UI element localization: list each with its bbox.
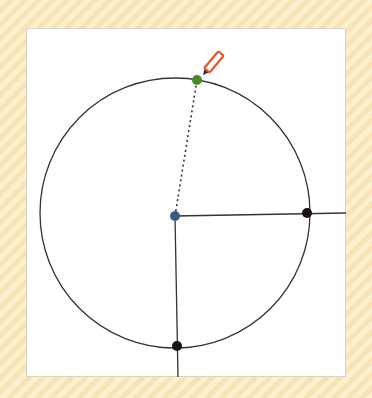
- vertical-ray-line[interactable]: [175, 216, 178, 377]
- dashed-radius-line[interactable]: [175, 80, 197, 216]
- intersection-bottom-point[interactable]: [172, 341, 182, 351]
- horizontal-ray-line[interactable]: [175, 213, 346, 216]
- center-point[interactable]: [170, 211, 180, 221]
- radius-endpoint-top-point[interactable]: [192, 75, 202, 85]
- intersection-right-point[interactable]: [302, 208, 312, 218]
- geometry-overlay: [0, 0, 372, 398]
- pencil-icon: [200, 51, 223, 77]
